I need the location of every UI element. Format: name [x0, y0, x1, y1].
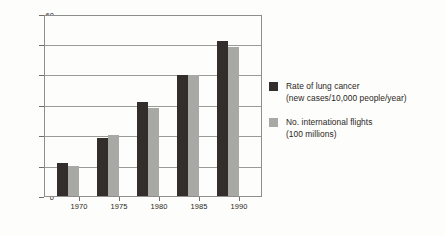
legend-swatch-icon: [269, 118, 278, 127]
x-tick-label: 1980: [139, 202, 179, 211]
x-tick-label: 1970: [59, 202, 99, 211]
chart-legend: Rate of lung cancer (new cases/10,000 pe…: [269, 81, 441, 153]
x-tick-label: 1975: [99, 202, 139, 211]
bar-chart-figure: 60 50 40 30 20 10 0: [0, 0, 445, 236]
bar-group-1985: [177, 16, 205, 196]
bar-lung-cancer-1970: [57, 163, 68, 196]
bar-lung-cancer-1980: [137, 102, 148, 196]
bar-flights-1985: [188, 75, 199, 196]
x-tick-mark: [239, 197, 240, 201]
bar-lung-cancer-1990: [217, 41, 228, 196]
bar-lung-cancer-1975: [97, 138, 108, 196]
bar-group-1980: [137, 16, 165, 196]
bar-group-1970: [57, 16, 85, 196]
legend-swatch-icon: [269, 82, 278, 91]
bar-lung-cancer-1985: [177, 75, 188, 196]
x-tick-mark: [159, 197, 160, 201]
y-tick-mark: [39, 197, 44, 198]
bar-group-1975: [97, 16, 125, 196]
legend-entry-flights: No. international flights (100 millions): [269, 117, 441, 140]
bar-flights-1970: [68, 166, 79, 196]
legend-label-line1: Rate of lung cancer: [286, 81, 441, 93]
plot-area: [44, 15, 262, 197]
bar-flights-1975: [108, 135, 119, 196]
legend-entry-lung-cancer: Rate of lung cancer (new cases/10,000 pe…: [269, 81, 441, 104]
legend-label-line1: No. international flights: [286, 117, 441, 129]
x-tick-mark: [79, 197, 80, 201]
bar-flights-1980: [148, 108, 159, 196]
x-tick-label: 1985: [179, 202, 219, 211]
x-tick-mark: [119, 197, 120, 201]
x-tick-label: 1990: [219, 202, 259, 211]
legend-label-line2: (new cases/10,000 people/year): [286, 93, 441, 105]
bar-group-1990: [217, 16, 245, 196]
legend-label-line2: (100 millions): [286, 129, 441, 141]
x-tick-mark: [199, 197, 200, 201]
bar-flights-1990: [228, 47, 239, 196]
